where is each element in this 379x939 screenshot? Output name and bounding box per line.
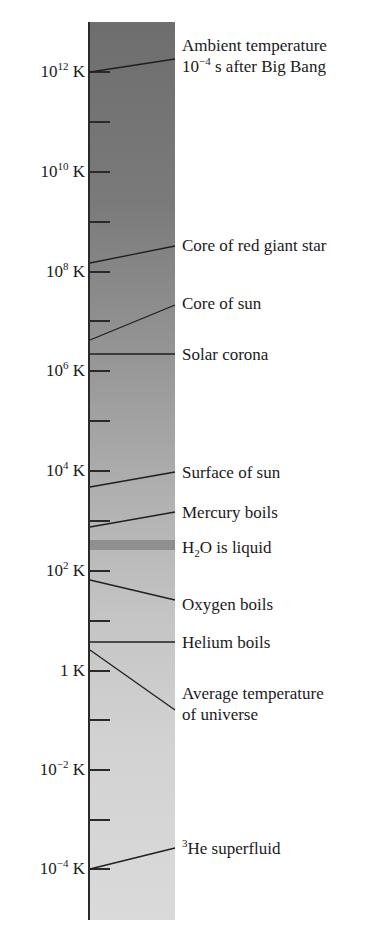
- tick-1e12: [90, 71, 110, 73]
- tick-1e-2: [90, 769, 110, 771]
- annotation-oxygen-boils: Oxygen boils: [182, 594, 273, 615]
- annotation-surface-sun: Surface of sun: [182, 462, 280, 483]
- tick-label-1e-2: 10−2 K: [40, 761, 85, 779]
- annotation-helium-boils: Helium boils: [182, 632, 270, 653]
- tick-label-1e-4: 10−4 K: [40, 860, 85, 878]
- tick-1e-4: [90, 868, 110, 870]
- annotation-mercury-boils: Mercury boils: [182, 502, 278, 523]
- tick-label-1e12: 1012 K: [40, 63, 85, 81]
- annotation-solar-corona: Solar corona: [182, 344, 268, 365]
- annotation-red-giant: Core of red giant star: [182, 235, 326, 256]
- tick-1e-1: [90, 719, 110, 721]
- tick-1e2: [90, 570, 110, 572]
- tick-label-1e4: 104 K: [46, 462, 85, 480]
- tick-1e6: [90, 370, 110, 372]
- annotation-avg-universe: Average temperature of universe: [182, 683, 324, 725]
- tick-label-1: 1 K: [60, 662, 85, 680]
- annotation-big-bang-line2: 10−4 s after Big Bang: [182, 56, 327, 77]
- tick-1e0: [90, 670, 110, 672]
- annotation-water-liquid: H2O is liquid: [182, 537, 272, 558]
- tick-1e-3: [90, 819, 110, 821]
- annotation-core-sun: Core of sun: [182, 293, 261, 314]
- water-liquid-band: [90, 540, 175, 550]
- tick-1e11: [90, 121, 110, 123]
- annotation-he3-superfluid: 3He superfluid: [182, 838, 281, 859]
- tick-1e9: [90, 221, 110, 223]
- tick-1e5: [90, 420, 110, 422]
- annotation-big-bang: Ambient temperature 10−4 s after Big Ban…: [182, 35, 327, 77]
- tick-1e8: [90, 271, 110, 273]
- tick-label-1e2: 102 K: [46, 562, 85, 580]
- tick-label-1e6: 106 K: [46, 362, 85, 380]
- tick-1e7: [90, 320, 110, 322]
- tick-1e3: [90, 520, 110, 522]
- tick-label-1e8: 108 K: [46, 263, 85, 281]
- tick-label-1e10: 1010 K: [40, 163, 85, 181]
- tick-1e1: [90, 620, 110, 622]
- tick-1e10: [90, 171, 110, 173]
- temperature-scale-diagram: 1012 K 1010 K 108 K 106 K 104 K 102 K 1 …: [0, 0, 379, 939]
- tick-1e4: [90, 470, 110, 472]
- annotation-big-bang-line1: Ambient temperature: [182, 35, 327, 56]
